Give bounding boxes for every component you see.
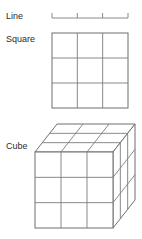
square-outline [52,33,128,108]
line-label: Line [6,11,23,21]
cube-graphic [35,124,135,228]
square-label: Square [6,34,35,44]
square-graphic [52,33,128,108]
cube-label: Cube [6,141,28,151]
cube-front-face [35,152,113,228]
dimension-figure: Line Square Cube [0,0,142,239]
figure-canvas: Line Square Cube [0,0,142,239]
